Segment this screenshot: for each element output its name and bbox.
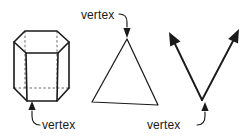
triangle-leader-line xyxy=(119,14,127,27)
prism-edge-front-right-vertical xyxy=(57,53,58,101)
angle-figure xyxy=(169,29,239,100)
prism-edge-front-left-vertical xyxy=(26,53,27,101)
prism-vertex-leader xyxy=(28,101,40,125)
prism-leader-arrowhead xyxy=(28,101,35,110)
angle-vertex-label: vertex xyxy=(147,119,180,131)
triangle-leader-arrowhead xyxy=(123,28,130,38)
angle-leader-arrowhead xyxy=(201,102,208,111)
hexagonal-prism-figure xyxy=(14,31,69,101)
angle-ray-right xyxy=(202,41,233,100)
triangle-outline xyxy=(92,39,158,105)
prism-body-fill xyxy=(14,31,69,101)
angle-ray-left xyxy=(175,44,202,100)
angle-ray-right-arrowhead xyxy=(228,29,239,44)
triangle-figure xyxy=(92,39,158,105)
angle-vertex-leader xyxy=(197,102,209,125)
angle-leader-line xyxy=(197,112,205,125)
prism-leader-line xyxy=(32,111,40,125)
prism-vertex-label: vertex xyxy=(42,119,75,131)
triangle-vertex-leader xyxy=(119,14,131,38)
triangle-vertex-label: vertex xyxy=(81,9,114,21)
diagram-canvas xyxy=(0,0,246,139)
geometry-vertex-diagram: vertex vertex vertex xyxy=(0,0,246,139)
